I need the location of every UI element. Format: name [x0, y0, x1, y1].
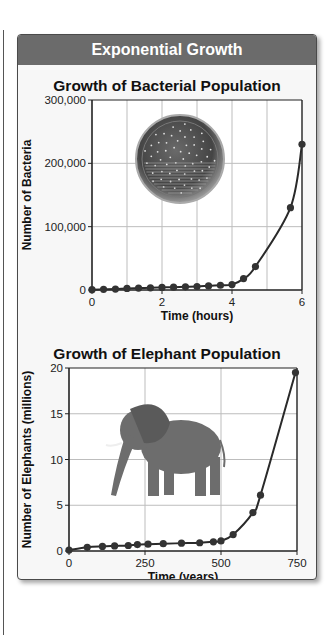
y-axis-label: Number of Elephants (millions) [20, 371, 34, 548]
data-point [292, 369, 299, 376]
data-point [210, 538, 217, 545]
data-point [249, 509, 256, 516]
data-point [134, 541, 141, 548]
y-tick-label: 10 [50, 454, 63, 466]
data-point [125, 542, 132, 549]
data-point [111, 542, 118, 549]
data-point [84, 544, 91, 551]
y-tick-label: 20 [50, 362, 63, 374]
x-tick-label: 250 [135, 557, 154, 569]
data-point [217, 537, 224, 544]
data-point [144, 541, 151, 548]
x-tick-label: 0 [66, 557, 72, 569]
data-point [196, 539, 203, 546]
page-margin-rule [3, 30, 4, 635]
elephant-chart: 051015200250500750Time (years)Number of … [18, 35, 316, 579]
data-point [178, 540, 185, 547]
x-tick-label: 750 [287, 557, 306, 569]
y-tick-label: 5 [57, 499, 63, 511]
y-tick-label: 15 [50, 408, 63, 420]
data-point [99, 543, 106, 550]
data-point [230, 531, 237, 538]
data-point [65, 546, 72, 553]
y-tick-label: 0 [57, 545, 63, 557]
x-axis-label: Time (years) [148, 570, 218, 579]
data-point [257, 492, 264, 499]
exponential-growth-panel: Exponential Growth Growth of Bacterial P… [17, 34, 317, 580]
x-tick-label: 500 [211, 557, 230, 569]
data-point [160, 540, 167, 547]
